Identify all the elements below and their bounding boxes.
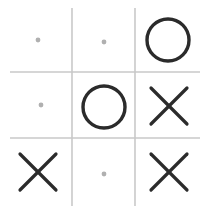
empty-cell-dot-icon (36, 38, 41, 43)
tic-tac-toe-board[interactable] (0, 0, 209, 214)
cell-top-right[interactable] (147, 19, 189, 61)
nought-icon (147, 19, 189, 61)
cell-middle-center[interactable] (83, 86, 125, 128)
cell-bottom-right[interactable] (151, 154, 187, 190)
cell-middle-right[interactable] (151, 88, 187, 124)
cell-middle-left[interactable] (39, 103, 44, 108)
empty-cell-dot-icon (102, 40, 107, 45)
cell-bottom-left[interactable] (20, 154, 56, 190)
cell-top-left[interactable] (36, 38, 41, 43)
cell-bottom-center[interactable] (102, 172, 107, 177)
nought-icon (83, 86, 125, 128)
empty-cell-dot-icon (102, 172, 107, 177)
cell-top-center[interactable] (102, 40, 107, 45)
board-canvas (0, 0, 209, 214)
empty-cell-dot-icon (39, 103, 44, 108)
